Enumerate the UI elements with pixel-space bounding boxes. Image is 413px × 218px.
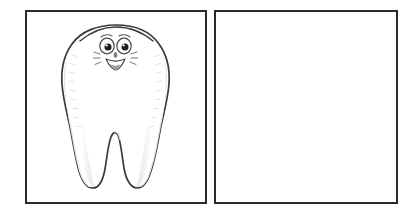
cartoon-tooth-illustration xyxy=(58,21,174,193)
blank-drawing-area[interactable] xyxy=(216,12,396,202)
nose xyxy=(114,52,117,57)
right-panel-content xyxy=(216,12,396,202)
right-panel[interactable] xyxy=(214,10,398,204)
left-panel[interactable] xyxy=(25,10,207,204)
left-panel-content xyxy=(27,12,205,202)
left-eye xyxy=(100,38,114,54)
right-eye xyxy=(117,38,131,54)
worksheet-canvas xyxy=(0,0,413,218)
